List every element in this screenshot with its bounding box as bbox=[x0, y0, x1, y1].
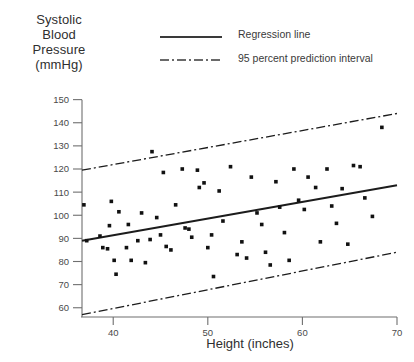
upper_prediction_interval-line bbox=[82, 114, 397, 171]
scatter-point bbox=[325, 167, 329, 171]
scatter-point bbox=[206, 246, 210, 250]
scatter-point bbox=[297, 198, 301, 202]
scatter-point bbox=[140, 211, 144, 215]
scatter-point bbox=[187, 227, 191, 231]
lower_prediction_interval-line bbox=[82, 252, 397, 314]
scatter-point bbox=[302, 208, 306, 212]
plot-svg: 60708090100110120130140150 40506070 bbox=[0, 0, 414, 362]
scatter-point bbox=[98, 234, 102, 238]
scatter-point bbox=[202, 181, 206, 185]
scatter-point bbox=[125, 246, 129, 250]
scatter-point bbox=[110, 200, 114, 204]
chart-figure: Systolic Blood Pressure (mmHg) Regressio… bbox=[0, 0, 414, 362]
y-tick-label: 90 bbox=[58, 233, 69, 244]
scatter-point bbox=[319, 240, 323, 244]
scatter-point bbox=[330, 204, 334, 208]
scatter-point bbox=[106, 247, 110, 251]
scatter-point bbox=[180, 167, 184, 171]
scatter-point bbox=[197, 186, 201, 190]
scatter-point bbox=[371, 215, 375, 219]
scatter-point bbox=[358, 165, 362, 169]
scatter-point bbox=[255, 211, 259, 215]
scatter-point bbox=[314, 186, 318, 190]
y-tick-label: 70 bbox=[58, 279, 69, 290]
scatter-point bbox=[117, 210, 121, 214]
y-tick-label: 80 bbox=[58, 256, 69, 267]
scatter-point bbox=[159, 233, 163, 237]
scatter-point bbox=[229, 165, 233, 169]
scatter-point bbox=[164, 245, 168, 249]
scatter-point bbox=[169, 248, 173, 252]
y-tick-label: 130 bbox=[53, 140, 69, 151]
scatter-point bbox=[283, 231, 287, 235]
scatter-point bbox=[268, 263, 272, 267]
y-tick-label: 100 bbox=[53, 210, 69, 221]
scatter-point bbox=[260, 223, 264, 227]
scatter-point bbox=[212, 275, 216, 279]
scatter-point bbox=[217, 189, 221, 193]
scatter-point bbox=[129, 259, 133, 263]
y-tick-label: 110 bbox=[54, 187, 69, 198]
scatter-point bbox=[240, 240, 244, 244]
scatter-point bbox=[136, 239, 140, 243]
scatter-point bbox=[112, 259, 116, 263]
scatter-point bbox=[82, 203, 86, 207]
scatter-point bbox=[85, 239, 89, 243]
scatter-point bbox=[274, 180, 278, 184]
scatter-point bbox=[148, 238, 152, 242]
scatter-points bbox=[82, 126, 384, 279]
y-tick-label: 120 bbox=[53, 163, 69, 174]
scatter-point bbox=[162, 171, 166, 175]
scatter-point bbox=[235, 253, 239, 257]
scatter-point bbox=[210, 233, 214, 237]
scatter-point bbox=[114, 272, 118, 276]
y-tick-label: 150 bbox=[53, 94, 69, 105]
x-tick-label: 40 bbox=[108, 327, 119, 338]
scatter-point bbox=[352, 164, 356, 168]
plot-area: 60708090100110120130140150 40506070 bbox=[0, 0, 414, 362]
x-axis-ticks: 40506070 bbox=[108, 317, 402, 338]
scatter-point bbox=[306, 175, 310, 179]
scatter-point bbox=[287, 259, 291, 263]
scatter-point bbox=[335, 222, 339, 226]
regression-line bbox=[82, 185, 397, 241]
scatter-point bbox=[127, 223, 131, 227]
scatter-point bbox=[108, 224, 112, 228]
x-axis-title: Height (inches) bbox=[160, 336, 340, 351]
scatter-point bbox=[101, 246, 105, 250]
scatter-point bbox=[245, 256, 249, 260]
scatter-point bbox=[183, 226, 187, 230]
scatter-point bbox=[346, 242, 350, 246]
scatter-point bbox=[221, 219, 225, 223]
scatter-point bbox=[250, 175, 254, 179]
scatter-point bbox=[155, 216, 159, 220]
scatter-point bbox=[174, 203, 178, 207]
scatter-point bbox=[264, 250, 268, 254]
scatter-point bbox=[196, 168, 200, 172]
x-tick-label: 70 bbox=[392, 327, 403, 338]
axes bbox=[81, 100, 397, 317]
y-axis-ticks: 60708090100110120130140150 bbox=[53, 94, 82, 313]
fit-lines bbox=[82, 114, 397, 315]
scatter-point bbox=[363, 196, 367, 200]
scatter-point bbox=[190, 235, 194, 239]
scatter-point bbox=[278, 205, 282, 209]
scatter-point bbox=[150, 150, 154, 154]
scatter-point bbox=[340, 187, 344, 191]
scatter-point bbox=[144, 261, 148, 265]
scatter-point bbox=[380, 126, 384, 130]
y-tick-label: 140 bbox=[53, 117, 69, 128]
y-tick-label: 60 bbox=[58, 302, 69, 313]
scatter-point bbox=[292, 167, 296, 171]
